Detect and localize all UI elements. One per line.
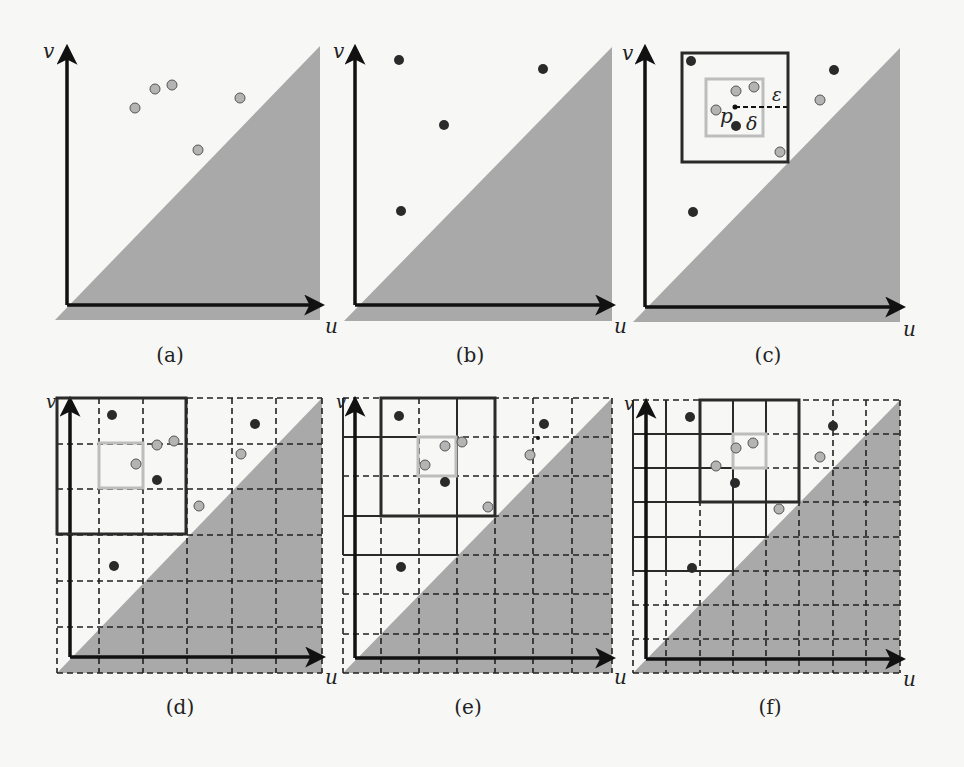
panel-b: u v (b) [325,39,612,367]
v-axis-label: v [46,391,56,412]
panel-e: v u (e) [336,391,627,719]
small-dot [536,436,540,440]
u-axis-label-e: u [614,665,627,689]
label-p: p [720,104,733,128]
epsilon-box [700,400,799,502]
caption-e: (e) [454,695,481,719]
v-axis-label: v [624,393,634,414]
panel-a: v (a) [43,39,321,367]
u-axis-label-c: u [903,317,916,341]
epsilon-box [57,398,186,534]
caption-b: (b) [456,343,484,367]
label-delta: δ [746,112,757,134]
panel-d: v u (d) [46,391,338,719]
caption-a: (a) [156,343,184,367]
u-axis-label-f: u [903,667,916,691]
figure: v (a) u v (b) u v [0,0,964,767]
v-axis-label: v [622,41,634,65]
v-axis-label: v [336,391,346,412]
u-axis-label-a: u [325,314,338,338]
v-axis-label: v [333,39,345,63]
caption-c: (c) [755,343,782,367]
caption-d: (d) [166,695,194,719]
panel-f: v u (f) [624,393,916,719]
panel-c: u v p δ ε u (c) [614,41,916,367]
point-p [733,105,738,110]
u-axis-label-d: u [325,665,338,689]
label-epsilon: ε [772,84,782,105]
v-axis-label: v [43,39,55,63]
u-axis-label-b: u [614,314,627,338]
shaded-region [633,48,900,322]
shaded-region [344,47,612,321]
shaded-region [55,46,320,320]
caption-f: (f) [758,695,781,719]
